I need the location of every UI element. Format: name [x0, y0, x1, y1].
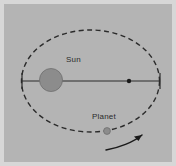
sun-label: Sun	[66, 56, 81, 64]
sun-body	[40, 69, 63, 92]
orbit-diagram-figure: Sun Planet	[0, 0, 176, 166]
planet-label: Planet	[92, 113, 116, 121]
orbit-direction-arrow-group	[106, 135, 142, 150]
orbit-diagram-canvas	[0, 0, 176, 166]
planet-body	[104, 128, 111, 135]
second-focus-point	[127, 79, 131, 83]
